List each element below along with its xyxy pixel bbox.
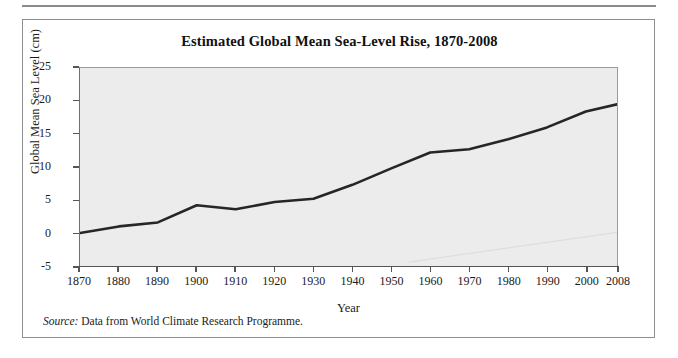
- y-tick-mark: [73, 200, 79, 202]
- chart-title: Estimated Global Mean Sea-Level Rise, 18…: [23, 33, 656, 50]
- y-tick-mark: [73, 233, 79, 235]
- sea-level-series-line: [80, 104, 617, 233]
- x-tick-mark: [156, 266, 158, 272]
- y-tick-label: 10: [11, 160, 51, 172]
- x-tick-mark: [274, 266, 276, 272]
- x-tick-mark: [195, 266, 197, 272]
- x-tick-mark: [469, 266, 471, 272]
- source-label: Source:: [43, 315, 78, 327]
- y-tick-mark: [73, 66, 79, 68]
- y-tick-label: 15: [11, 127, 51, 139]
- x-tick-mark: [508, 266, 510, 272]
- source-text: Data from World Climate Research Program…: [78, 315, 303, 327]
- x-tick-mark: [430, 266, 432, 272]
- y-tick-label: 0: [11, 227, 51, 239]
- y-tick-mark: [73, 133, 79, 135]
- scan-artifact-line: [409, 232, 617, 262]
- scan-speck: [137, 215, 139, 217]
- y-tick-label: 25: [11, 60, 51, 72]
- x-tick-mark: [313, 266, 315, 272]
- x-tick-mark: [117, 266, 119, 272]
- x-tick-mark: [391, 266, 393, 272]
- y-tick-label: 5: [11, 193, 51, 205]
- x-tick-mark: [352, 266, 354, 272]
- page-top-rule: [22, 5, 656, 7]
- figure-page: Estimated Global Mean Sea-Level Rise, 18…: [0, 0, 678, 358]
- x-tick-mark: [234, 266, 236, 272]
- sea-level-line-chart: [80, 68, 617, 266]
- y-tick-mark: [73, 100, 79, 102]
- y-tick-label: -5: [11, 260, 51, 272]
- x-tick-mark: [78, 266, 80, 272]
- x-tick-mark: [617, 266, 619, 272]
- x-tick-mark: [547, 266, 549, 272]
- source-note: Source: Data from World Climate Research…: [43, 315, 303, 327]
- x-axis-title: Year: [79, 301, 618, 316]
- y-tick-label: 20: [11, 93, 51, 105]
- y-tick-mark: [73, 166, 79, 168]
- x-tick-label: 2008: [595, 275, 641, 287]
- figure-box: Estimated Global Mean Sea-Level Rise, 18…: [22, 19, 655, 338]
- x-tick-mark: [586, 266, 588, 272]
- plot-area: [79, 67, 618, 267]
